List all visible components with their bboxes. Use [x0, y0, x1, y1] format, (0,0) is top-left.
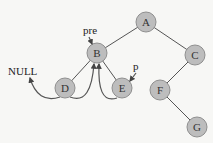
- node-A: A: [136, 12, 156, 32]
- p-pointer-label: p: [133, 60, 139, 72]
- tree-edges: [65, 22, 197, 127]
- p-pointer-arrow: [130, 73, 136, 81]
- pre-pointer-label: pre: [83, 24, 97, 36]
- node-label: D: [61, 82, 69, 94]
- node-B: B: [87, 43, 107, 63]
- node-label: G: [193, 121, 201, 133]
- node-label: F: [157, 84, 163, 96]
- node-E: E: [112, 78, 132, 98]
- node-label: A: [142, 16, 150, 28]
- node-label: E: [119, 82, 126, 94]
- node-D: D: [55, 78, 75, 98]
- threaded-binary-tree-diagram: A B C D E F G NULL pre p: [0, 0, 213, 143]
- pre-pointer-arrow: [89, 37, 92, 44]
- node-label: B: [93, 47, 100, 59]
- null-label: NULL: [8, 65, 38, 77]
- node-G: G: [187, 117, 207, 137]
- node-label: C: [191, 49, 198, 61]
- node-C: C: [185, 45, 205, 65]
- node-F: F: [150, 80, 170, 100]
